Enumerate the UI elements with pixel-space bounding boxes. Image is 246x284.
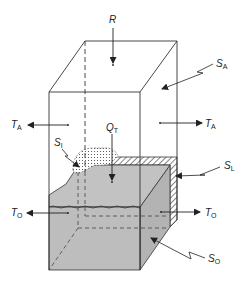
label-S-A: SA (216, 58, 228, 70)
sl-pointer (176, 167, 220, 176)
label-S-L: SL (224, 160, 235, 172)
label-Q-T: QT (106, 122, 119, 134)
label-S-O: SO (208, 253, 221, 265)
radiation-arrow (112, 28, 114, 66)
ta-right-arrow (159, 122, 202, 124)
ta-left-arrow (28, 124, 69, 126)
label-T-A-left: TA (11, 119, 22, 131)
label-T-O-left: TO (11, 207, 23, 219)
label-T-O-right: TO (205, 207, 217, 219)
label-R: R (109, 14, 116, 25)
ocean-block (49, 165, 170, 270)
label-S-I: SI (54, 137, 63, 149)
sa-pointer (162, 64, 213, 89)
label-T-A-right: TA (205, 118, 216, 130)
climate-box-diagram: R SA TA TA QT SI SL TO TO (0, 0, 246, 284)
